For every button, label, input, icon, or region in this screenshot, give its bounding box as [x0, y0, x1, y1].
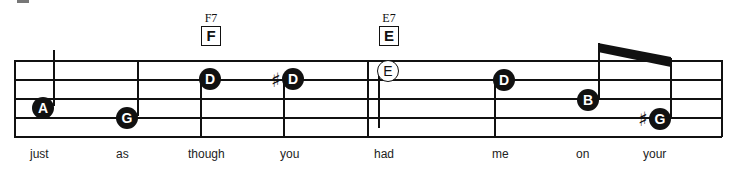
lyric-word: as — [116, 147, 129, 161]
barline-start — [14, 60, 16, 137]
lyric-word: me — [492, 147, 509, 161]
sharp-accidental: ♯ — [638, 109, 648, 129]
lyric-word: had — [374, 147, 394, 161]
note-head-g-sharp: G — [649, 108, 671, 130]
beam — [590, 40, 680, 80]
lyric-word: on — [576, 147, 589, 161]
stem — [598, 43, 600, 100]
lyric-word: you — [280, 147, 299, 161]
music-staff: F7 F E7 E A G D ♯ D E D B ♯ G just as th… — [0, 0, 733, 172]
note-head-e-open: E — [377, 60, 399, 82]
corner-mark — [17, 0, 29, 3]
chord-box-f: F — [201, 26, 221, 46]
barline-middle — [367, 60, 369, 137]
stem — [200, 79, 202, 137]
chord-box-e: E — [379, 26, 399, 46]
stem — [137, 60, 139, 116]
chord-name-e7: E7 — [374, 11, 404, 26]
lyric-word: though — [188, 147, 225, 161]
note-head-g: G — [116, 107, 138, 129]
note-head-d: D — [199, 68, 221, 90]
stem — [53, 50, 55, 106]
lyric-word: your — [643, 147, 666, 161]
chord-name-f7: F7 — [196, 11, 226, 26]
stem — [670, 58, 672, 119]
stem — [283, 79, 285, 137]
sharp-accidental: ♯ — [271, 70, 281, 90]
note-head-d: D — [493, 69, 515, 91]
note-head-b: B — [577, 89, 599, 111]
note-head-a: A — [32, 97, 54, 119]
barline-end — [721, 60, 723, 137]
note-head-d-sharp: D — [282, 68, 304, 90]
lyric-word: just — [30, 147, 49, 161]
